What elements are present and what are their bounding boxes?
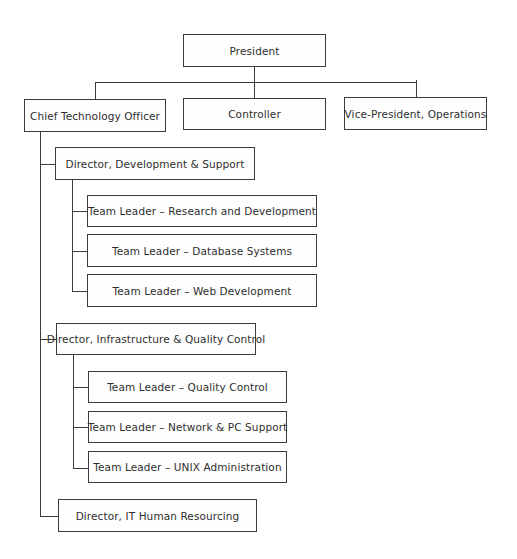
node-label: Team Leader – UNIX Administration bbox=[93, 461, 281, 473]
node-cto: Chief Technology Officer bbox=[24, 99, 166, 132]
node-label: Vice-President, Operations bbox=[345, 108, 487, 120]
node-label: Team Leader – Research and Development bbox=[88, 205, 316, 217]
node-vp-operations: Vice-President, Operations bbox=[344, 97, 487, 130]
node-tl-quality: Team Leader – Quality Control bbox=[88, 371, 287, 403]
connector-level1-bar bbox=[95, 82, 417, 83]
node-label: Controller bbox=[228, 108, 281, 120]
node-tl-web: Team Leader – Web Development bbox=[87, 274, 317, 307]
node-tl-network: Team Leader – Network & PC Support bbox=[88, 411, 287, 443]
node-director-hr: Director, IT Human Resourcing bbox=[58, 499, 257, 532]
connector-to-tl-web bbox=[72, 291, 87, 292]
node-label: Team Leader – Web Development bbox=[113, 285, 292, 297]
node-tl-unix: Team Leader – UNIX Administration bbox=[88, 451, 287, 483]
node-tl-research: Team Leader – Research and Development bbox=[87, 195, 317, 227]
node-label: Director, Infrastructure & Quality Contr… bbox=[47, 333, 266, 345]
node-label: Director, IT Human Resourcing bbox=[76, 510, 240, 522]
connector-to-director-hr bbox=[40, 516, 58, 517]
connector-to-vp bbox=[416, 80, 417, 97]
connector-to-cto bbox=[95, 82, 96, 99]
node-label: Team Leader – Network & PC Support bbox=[88, 421, 288, 433]
connector-infra-spine bbox=[73, 355, 74, 468]
connector-to-tl-network bbox=[73, 427, 88, 428]
connector-to-controller bbox=[254, 82, 255, 98]
node-controller: Controller bbox=[183, 98, 326, 130]
node-label: Chief Technology Officer bbox=[30, 110, 160, 122]
connector-to-director-dev bbox=[40, 164, 55, 165]
node-label: Director, Development & Support bbox=[65, 158, 244, 170]
node-label: President bbox=[230, 45, 280, 57]
node-label: Team Leader – Database Systems bbox=[112, 245, 292, 257]
org-chart: President Chief Technology Officer Contr… bbox=[0, 0, 517, 559]
connector-to-tl-qc bbox=[73, 387, 88, 388]
node-director-infrastructure: Director, Infrastructure & Quality Contr… bbox=[56, 323, 256, 355]
node-label: Team Leader – Quality Control bbox=[107, 381, 268, 393]
connector-to-tl-unix bbox=[73, 468, 88, 469]
node-director-development: Director, Development & Support bbox=[55, 147, 255, 180]
connector-cto-spine bbox=[40, 132, 41, 516]
connector-dev-spine bbox=[72, 179, 73, 291]
connector-president-down bbox=[254, 66, 255, 83]
connector-to-tl-rnd bbox=[72, 211, 87, 212]
connector-to-tl-db bbox=[72, 251, 87, 252]
node-tl-database: Team Leader – Database Systems bbox=[87, 234, 317, 267]
node-president: President bbox=[183, 34, 326, 67]
